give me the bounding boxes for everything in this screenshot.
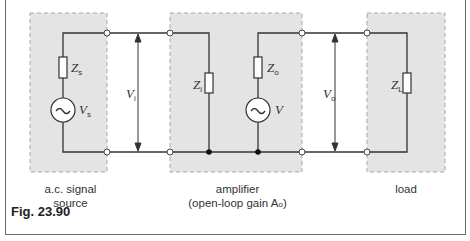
terminal-icon xyxy=(104,30,110,36)
terminal-icon xyxy=(167,30,173,36)
amplifier-block-label: amplifier (open-loop gain Ao) xyxy=(160,182,315,212)
zl-resistor-icon xyxy=(403,73,411,93)
vi-label: Vi xyxy=(126,86,136,103)
terminal-icon xyxy=(364,30,370,36)
zs-resistor-icon xyxy=(59,57,67,78)
terminal-icon xyxy=(299,149,305,155)
vo-label: Vo xyxy=(323,86,336,103)
junction-dot-icon xyxy=(255,149,261,155)
figure-caption: Fig. 23.90 xyxy=(11,204,70,219)
junction-dot-icon xyxy=(206,149,212,155)
zo-resistor-icon xyxy=(254,57,262,78)
terminal-icon xyxy=(167,149,173,155)
terminal-icon xyxy=(364,149,370,155)
terminal-icon xyxy=(299,30,305,36)
load-block-label: load xyxy=(367,182,445,196)
zi-resistor-icon xyxy=(205,73,213,93)
amplifier-block xyxy=(170,13,302,172)
terminal-icon xyxy=(104,149,110,155)
source-block xyxy=(30,13,107,172)
